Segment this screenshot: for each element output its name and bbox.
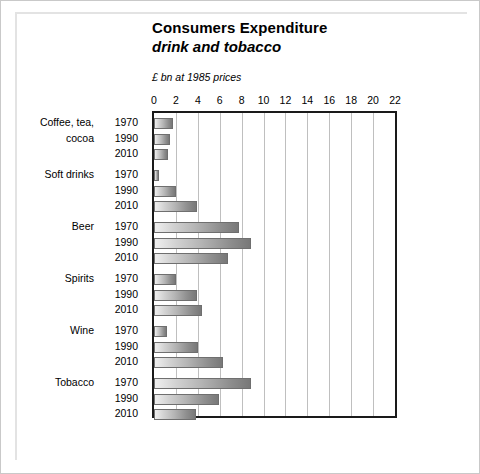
year-label-1990: 1990 bbox=[115, 393, 138, 404]
x-tick-22: 22 bbox=[389, 94, 401, 106]
y-axis-category-labels: 197019902010Coffee, tea,cocoa19701990201… bbox=[1, 111, 152, 418]
table-row bbox=[154, 222, 239, 233]
table-row bbox=[154, 290, 197, 301]
chart-subtitle: drink and tobacco bbox=[152, 38, 452, 56]
category-label-spirits: Spirits bbox=[65, 273, 94, 284]
bar-soft-drinks-1970 bbox=[154, 170, 159, 181]
table-row bbox=[154, 118, 173, 129]
table-row bbox=[154, 253, 228, 264]
x-tick-14: 14 bbox=[302, 94, 314, 106]
year-label-2010: 2010 bbox=[115, 356, 138, 367]
bar-rows bbox=[154, 113, 395, 416]
category-label-tobacco: Tobacco bbox=[55, 377, 94, 388]
x-tick-0: 0 bbox=[151, 94, 157, 106]
year-label-2010: 2010 bbox=[115, 408, 138, 419]
table-row bbox=[154, 134, 170, 145]
year-label-1990: 1990 bbox=[115, 185, 138, 196]
x-axis-tick-labels: 0246810121416182022 bbox=[152, 94, 397, 108]
year-label-2010: 2010 bbox=[115, 304, 138, 315]
table-row bbox=[154, 357, 223, 368]
bar-wine-1970 bbox=[154, 326, 167, 337]
table-row bbox=[154, 274, 176, 285]
table-row bbox=[154, 238, 251, 249]
year-label-2010: 2010 bbox=[115, 200, 138, 211]
table-row bbox=[154, 378, 251, 389]
x-tick-2: 2 bbox=[173, 94, 179, 106]
x-tick-12: 12 bbox=[280, 94, 292, 106]
bar-wine-1990 bbox=[154, 342, 198, 353]
category-label-wine: Wine bbox=[70, 325, 94, 336]
year-label-2010: 2010 bbox=[115, 148, 138, 159]
year-label-1970: 1970 bbox=[115, 377, 138, 388]
table-row bbox=[154, 186, 176, 197]
bar-soft-drinks-1990 bbox=[154, 186, 176, 197]
year-label-1990: 1990 bbox=[115, 341, 138, 352]
category-label-beer: Beer bbox=[72, 221, 94, 232]
table-row bbox=[154, 305, 202, 316]
table-row bbox=[154, 409, 196, 420]
bar-wine-2010 bbox=[154, 357, 223, 368]
bar-spirits-1990 bbox=[154, 290, 197, 301]
x-tick-10: 10 bbox=[258, 94, 270, 106]
bar-spirits-1970 bbox=[154, 274, 176, 285]
x-tick-18: 18 bbox=[345, 94, 357, 106]
bar-beer-2010 bbox=[154, 253, 228, 264]
bar-tobacco-1970 bbox=[154, 378, 251, 389]
bar-tobacco-1990 bbox=[154, 394, 219, 405]
page-title: Consumers Expenditure bbox=[152, 19, 452, 37]
category-label-soft-drinks: Soft drinks bbox=[44, 169, 94, 180]
table-row bbox=[154, 326, 167, 337]
bar-tobacco-2010 bbox=[154, 409, 196, 420]
x-tick-16: 16 bbox=[323, 94, 335, 106]
year-label-1970: 1970 bbox=[115, 273, 138, 284]
year-label-1970: 1970 bbox=[115, 221, 138, 232]
table-row bbox=[154, 342, 198, 353]
bar-spirits-2010 bbox=[154, 305, 202, 316]
table-row bbox=[154, 201, 197, 212]
bar-beer-1990 bbox=[154, 238, 251, 249]
chart-units-note: £ bn at 1985 prices bbox=[152, 71, 241, 83]
bar-coffee-tea-cocoa-1990 bbox=[154, 134, 170, 145]
chart-title-block: Consumers Expenditure drink and tobacco bbox=[152, 19, 452, 56]
x-tick-6: 6 bbox=[217, 94, 223, 106]
year-label-1990: 1990 bbox=[115, 289, 138, 300]
year-label-1990: 1990 bbox=[115, 237, 138, 248]
category-label-coffee-tea-cocoa: Coffee, tea, bbox=[40, 117, 94, 128]
plot-area bbox=[152, 111, 397, 418]
year-label-1970: 1970 bbox=[115, 325, 138, 336]
bar-coffee-tea-cocoa-2010 bbox=[154, 149, 168, 160]
year-label-1970: 1970 bbox=[115, 117, 138, 128]
table-row bbox=[154, 170, 159, 181]
category-label-continuation: cocoa bbox=[66, 133, 94, 144]
x-tick-8: 8 bbox=[239, 94, 245, 106]
table-row bbox=[154, 149, 168, 160]
bar-soft-drinks-2010 bbox=[154, 201, 197, 212]
year-label-1990: 1990 bbox=[115, 133, 138, 144]
year-label-2010: 2010 bbox=[115, 252, 138, 263]
x-tick-4: 4 bbox=[195, 94, 201, 106]
table-row bbox=[154, 394, 219, 405]
chart-figure: Consumers Expenditure drink and tobacco … bbox=[0, 0, 480, 474]
bar-coffee-tea-cocoa-1970 bbox=[154, 118, 173, 129]
x-tick-20: 20 bbox=[367, 94, 379, 106]
year-label-1970: 1970 bbox=[115, 169, 138, 180]
bar-beer-1970 bbox=[154, 222, 239, 233]
